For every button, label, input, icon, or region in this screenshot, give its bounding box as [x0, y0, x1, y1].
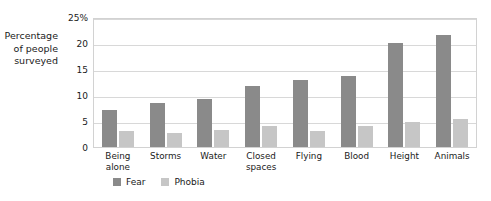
x-axis-labels: Being aloneStormsWaterClosed spacesFlyin… — [94, 151, 476, 172]
bar-fear[interactable] — [341, 76, 356, 147]
legend-label-phobia: Phobia — [174, 177, 204, 187]
bar-chart: Percentage of people surveyed 25% 20 15 … — [0, 0, 491, 201]
bar-fear[interactable] — [436, 35, 451, 147]
legend-swatch-fear-icon — [113, 178, 121, 186]
bar-group — [142, 19, 190, 147]
x-axis-label: Height — [381, 151, 429, 172]
bar-group — [333, 19, 381, 147]
bar-phobia[interactable] — [262, 126, 277, 147]
x-axis-label: Water — [190, 151, 238, 172]
bar-series-container — [94, 19, 476, 147]
bar-group — [190, 19, 238, 147]
legend-item-phobia: Phobia — [161, 177, 204, 187]
y-axis-tick-10: 10 — [48, 91, 88, 101]
legend: Fear Phobia — [113, 177, 205, 187]
x-axis-label: Blood — [333, 151, 381, 172]
bar-phobia[interactable] — [167, 133, 182, 147]
bar-phobia[interactable] — [119, 131, 134, 147]
bar-phobia[interactable] — [358, 126, 373, 147]
y-axis-tick-25: 25% — [48, 13, 88, 23]
x-axis-label: Storms — [142, 151, 190, 172]
y-axis-tick-20: 20 — [48, 39, 88, 49]
x-axis-label: Closed spaces — [237, 151, 285, 172]
legend-swatch-phobia-icon — [161, 178, 169, 186]
x-axis-label: Animals — [428, 151, 476, 172]
legend-label-fear: Fear — [126, 177, 145, 187]
bar-fear[interactable] — [293, 80, 308, 147]
bar-phobia[interactable] — [310, 131, 325, 147]
x-axis-label: Flying — [285, 151, 333, 172]
bar-group — [94, 19, 142, 147]
bar-phobia[interactable] — [453, 119, 468, 147]
bar-group — [237, 19, 285, 147]
legend-item-fear: Fear — [113, 177, 145, 187]
bar-fear[interactable] — [197, 99, 212, 147]
bar-fear[interactable] — [245, 86, 260, 147]
y-axis-tick-15: 15 — [48, 65, 88, 75]
y-axis-tick-5: 5 — [48, 117, 88, 127]
bar-fear[interactable] — [150, 103, 165, 147]
y-axis-tick-0: 0 — [48, 143, 88, 153]
bar-group — [428, 19, 476, 147]
bar-group — [381, 19, 429, 147]
bar-phobia[interactable] — [214, 130, 229, 147]
x-axis-label: Being alone — [94, 151, 142, 172]
bar-fear[interactable] — [388, 43, 403, 147]
bar-fear[interactable] — [102, 110, 117, 147]
bar-group — [285, 19, 333, 147]
bar-phobia[interactable] — [405, 122, 420, 147]
